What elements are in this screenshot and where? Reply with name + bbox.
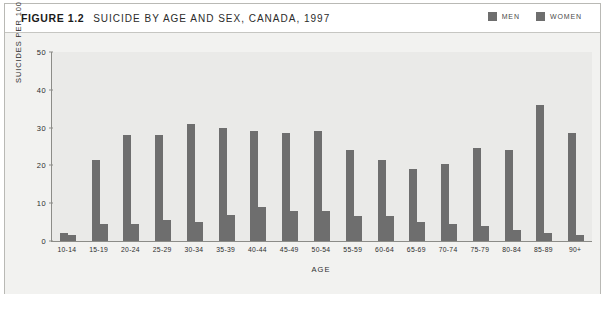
bar-group: [433, 52, 465, 241]
legend-item-women[interactable]: WOMEN: [536, 12, 582, 21]
bar-women-40-44[interactable]: [258, 207, 266, 241]
x-axis-tick-label: 15-19: [83, 246, 115, 253]
bar-men-65-69[interactable]: [409, 169, 417, 241]
y-axis-tick: 20: [28, 161, 52, 170]
legend-item-men[interactable]: MEN: [488, 12, 520, 21]
bar-men-70-74[interactable]: [441, 164, 449, 241]
x-axis-tick-label: 40-44: [242, 246, 274, 253]
bar-women-10-14[interactable]: [68, 235, 76, 241]
legend-swatch-men-icon: [488, 12, 497, 21]
bar-group: [401, 52, 433, 241]
x-axis-tick-label: 35-39: [210, 246, 242, 253]
x-axis-tick-label: 50-54: [305, 246, 337, 253]
bar-women-25-29[interactable]: [163, 220, 171, 241]
x-axis-tick-label: 45-49: [273, 246, 305, 253]
y-axis-tick-label: 0: [28, 237, 46, 246]
bar-men-55-59[interactable]: [346, 150, 354, 241]
x-axis-tick-label: 80-84: [496, 246, 528, 253]
x-axis-tick-label: 75-79: [464, 246, 496, 253]
page-title: SUICIDE BY AGE AND SEX, CANADA, 1997: [93, 13, 330, 24]
bar-men-40-44[interactable]: [250, 131, 258, 241]
bar-women-15-19[interactable]: [100, 224, 108, 241]
figure-number: FIGURE 1.2: [21, 12, 84, 24]
y-axis-tick-label: 50: [28, 48, 46, 57]
bar-men-15-19[interactable]: [92, 160, 100, 241]
x-axis-labels: 10-1415-1920-2425-2930-3435-3940-4445-49…: [51, 246, 591, 253]
y-axis-title: SUICIDES PER 100 000 PEOPLE: [14, 0, 23, 83]
bar-women-20-24[interactable]: [131, 224, 139, 241]
bar-men-60-64[interactable]: [378, 160, 386, 241]
figure-panel: FIGURE 1.2 SUICIDE BY AGE AND SEX, CANAD…: [4, 3, 601, 294]
bar-women-55-59[interactable]: [354, 216, 362, 241]
bar-group: [497, 52, 529, 241]
figure-root: FIGURE 1.2 SUICIDE BY AGE AND SEX, CANAD…: [0, 0, 609, 317]
y-axis-tick-label: 20: [28, 161, 46, 170]
y-axis-tick: 0: [28, 237, 52, 246]
legend-swatch-women-icon: [536, 12, 545, 21]
x-axis-tick-label: 25-29: [146, 246, 178, 253]
bar-group: [465, 52, 497, 241]
chart-legend: MEN WOMEN: [488, 12, 582, 21]
bar-group: [528, 52, 560, 241]
bar-men-80-84[interactable]: [505, 150, 513, 241]
bar-group: [370, 52, 402, 241]
x-axis-tick-label: 70-74: [432, 246, 464, 253]
bar-men-85-89[interactable]: [536, 105, 544, 241]
figure-header: FIGURE 1.2 SUICIDE BY AGE AND SEX, CANAD…: [5, 4, 600, 33]
title-block: FIGURE 1.2 SUICIDE BY AGE AND SEX, CANAD…: [21, 12, 330, 24]
bar-men-50-54[interactable]: [314, 131, 322, 241]
bar-group: [84, 52, 116, 241]
bar-group: [52, 52, 84, 241]
bar-women-80-84[interactable]: [513, 230, 521, 241]
bar-women-85-89[interactable]: [544, 233, 552, 241]
bar-men-30-34[interactable]: [187, 124, 195, 241]
x-axis-tick-label: 55-59: [337, 246, 369, 253]
bar-men-45-49[interactable]: [282, 133, 290, 241]
x-axis-tick-label: 10-14: [51, 246, 83, 253]
bars-layer: [52, 52, 592, 241]
bar-women-75-79[interactable]: [481, 226, 489, 241]
bar-group: [274, 52, 306, 241]
bar-men-90+[interactable]: [568, 133, 576, 241]
y-axis-tick: 50: [28, 48, 52, 57]
bar-women-60-64[interactable]: [386, 216, 394, 241]
bar-women-45-49[interactable]: [290, 211, 298, 241]
bar-group: [306, 52, 338, 241]
x-axis-tick-label: 30-34: [178, 246, 210, 253]
bar-men-25-29[interactable]: [155, 135, 163, 241]
y-axis-tick: 30: [28, 123, 52, 132]
bar-women-90+[interactable]: [576, 235, 584, 241]
bar-group: [179, 52, 211, 241]
bar-group: [147, 52, 179, 241]
x-axis-tick-label: 90+: [559, 246, 591, 253]
y-axis-tick: 10: [28, 199, 52, 208]
bar-group: [243, 52, 275, 241]
x-axis-tick-label: 85-89: [527, 246, 559, 253]
bar-group: [560, 52, 592, 241]
bar-men-20-24[interactable]: [123, 135, 131, 241]
bar-group: [338, 52, 370, 241]
legend-label-men: MEN: [502, 13, 520, 20]
x-axis-tick-label: 65-69: [400, 246, 432, 253]
plot-area: 01020304050: [51, 52, 592, 242]
legend-label-women: WOMEN: [550, 13, 582, 20]
bar-women-70-74[interactable]: [449, 224, 457, 241]
bar-women-35-39[interactable]: [227, 215, 235, 241]
bar-women-30-34[interactable]: [195, 222, 203, 241]
bar-group: [116, 52, 148, 241]
y-axis-tick-label: 40: [28, 85, 46, 94]
x-axis-tick-label: 20-24: [115, 246, 147, 253]
bar-women-50-54[interactable]: [322, 211, 330, 241]
bar-group: [211, 52, 243, 241]
bar-women-65-69[interactable]: [417, 222, 425, 241]
chart-body: SUICIDES PER 100 000 PEOPLE 01020304050 …: [5, 33, 600, 294]
y-axis-tick-label: 30: [28, 123, 46, 132]
y-axis-tick: 40: [28, 85, 52, 94]
x-axis-tick-label: 60-64: [369, 246, 401, 253]
bar-men-75-79[interactable]: [473, 148, 481, 241]
bar-men-35-39[interactable]: [219, 128, 227, 241]
bar-men-10-14[interactable]: [60, 233, 68, 241]
x-axis-title: AGE: [51, 265, 591, 274]
y-axis-tick-label: 10: [28, 199, 46, 208]
